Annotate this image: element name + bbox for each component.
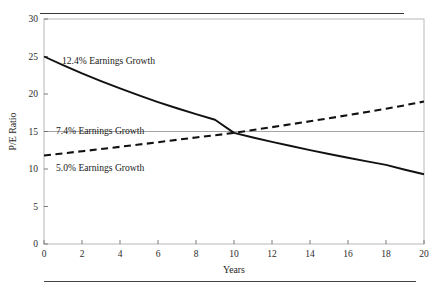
annotation-0: 12.4% Earnings Growth	[62, 55, 155, 66]
series-annotations: 12.4% Earnings Growth7.4% Earnings Growt…	[56, 55, 155, 173]
y-axis-ticks	[44, 19, 48, 244]
x-tick-label-18: 18	[381, 249, 391, 259]
y-tick-label-0: 0	[33, 239, 38, 249]
y-tick-label-15: 15	[29, 127, 39, 137]
x-tick-label-2: 2	[80, 249, 85, 259]
x-tick-label-4: 4	[118, 249, 123, 259]
y-tick-label-25: 25	[29, 52, 39, 62]
y-axis-tick-labels: 051015202530	[29, 14, 39, 249]
x-tick-label-12: 12	[267, 249, 277, 259]
data-series-group	[44, 57, 424, 175]
x-tick-label-0: 0	[42, 249, 47, 259]
chart-figure: 051015202530 02468101214161820 12.4% Ear…	[0, 0, 446, 297]
pe-ratio-line-chart: 051015202530 02468101214161820 12.4% Ear…	[0, 0, 446, 297]
x-tick-label-14: 14	[305, 249, 315, 259]
x-tick-label-8: 8	[194, 249, 199, 259]
y-tick-label-20: 20	[29, 89, 39, 99]
x-axis-ticks	[44, 240, 424, 244]
y-axis-title: P/E Ratio	[7, 112, 18, 150]
annotation-2: 5.0% Earnings Growth	[56, 162, 144, 173]
y-tick-label-5: 5	[33, 202, 38, 212]
x-tick-label-10: 10	[229, 249, 239, 259]
y-tick-label-10: 10	[29, 164, 39, 174]
x-tick-label-20: 20	[419, 249, 429, 259]
y-tick-label-30: 30	[29, 14, 39, 24]
x-axis-tick-labels: 02468101214161820	[42, 249, 429, 259]
annotation-1: 7.4% Earnings Growth	[56, 125, 144, 136]
x-axis-title: Years	[223, 264, 245, 275]
series-line-0	[44, 57, 424, 175]
x-tick-label-16: 16	[343, 249, 353, 259]
x-tick-label-6: 6	[156, 249, 161, 259]
